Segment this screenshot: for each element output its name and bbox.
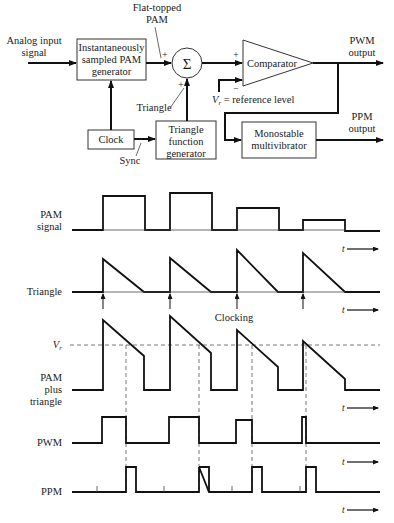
monostable-label: multivibrator [251,140,307,151]
comparator-minus: − [233,84,238,94]
time-axis-label: t [342,403,345,413]
time-axis-label: t [342,244,345,254]
ppm-waveform [72,467,380,492]
vr-axis-label: Vr [53,339,62,352]
flat-topped-label: Flat-topped [133,2,182,13]
input-label: signal [21,47,46,58]
triangle-waveform [72,250,380,292]
pam-signal-label: signal [37,221,62,232]
pwm-waveform-label: PWM [37,437,63,448]
input-label: Analog input [6,35,61,46]
waveforms: PAM signal t Triangle Clocking t Vr PAM … [27,193,380,515]
pam-plus-triangle-label: PAM [40,372,62,383]
block-diagram: Analog input signal Instantaneously samp… [6,2,383,166]
pam-signal-label: PAM [40,209,62,220]
comparator-plus: + [233,50,238,60]
flat-topped-pointer [155,27,161,58]
pam-generator-label: sampled PAM [82,54,142,65]
ppm-output-label: PPM [351,111,373,122]
triangle-input-label: Triangle [136,102,172,113]
comparator-label: Comparator [247,58,298,69]
pam-plus-triangle-waveform [72,316,380,390]
clocking-label: Clocking [215,312,254,323]
clock-label: Clock [98,134,124,145]
triangle-generator-label: Triangle [168,124,204,135]
sync-label: Sync [120,155,141,166]
triangle-generator-label: generator [166,148,206,159]
triangle-generator-label: function [169,136,205,147]
triangle-pointer [170,88,184,108]
time-axis-label: t [342,305,345,315]
pam-plus-triangle-label: plus [44,384,62,395]
pwm-output-label: output [349,47,376,58]
time-axis-label: t [342,505,345,515]
pam-waveform [72,193,380,231]
summer-plus-top: + [162,50,167,60]
triangle-waveform-label: Triangle [27,286,63,297]
pam-plus-triangle-label: triangle [30,396,62,407]
pwm-waveform [72,417,380,443]
vr-label: Vr = reference level [212,94,294,107]
monostable-label: Monostable [254,128,304,139]
flat-topped-label: PAM [146,14,168,25]
pwm-output-label: PWM [349,35,375,46]
time-axis-label: t [342,457,345,467]
summer-plus-bottom: + [178,80,183,90]
pwm-ppm-diagram: Analog input signal Instantaneously samp… [0,0,394,523]
ppm-output-label: output [349,123,376,134]
sigma-icon: Σ [183,56,192,72]
pam-generator-label: generator [92,66,132,77]
pam-generator-label: Instantaneously [79,42,146,53]
ppm-waveform-label: PPM [41,486,63,497]
